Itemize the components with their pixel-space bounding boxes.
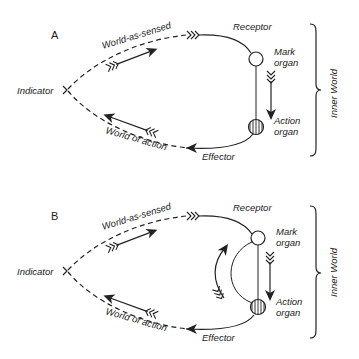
world-of-action-label: World of action — [104, 124, 168, 152]
panel-label-a: A — [51, 29, 59, 41]
receptor-path — [199, 35, 251, 53]
inner-world-brace-icon — [310, 206, 321, 338]
receptor-fletching-icon — [187, 31, 199, 39]
mark-organ-label-1: Mark — [276, 226, 298, 237]
functional-cycle-diagram: A Indicator Receptor World-as-sensed Eff… — [0, 0, 359, 359]
mark-organ-label-1: Mark — [274, 46, 296, 57]
panel-label-b: B — [51, 210, 58, 222]
receptor-path — [199, 216, 252, 234]
indicator-vertex-icon — [63, 267, 67, 275]
inner-world-label: Inner World — [328, 68, 339, 118]
mark-organ-label-2: organ — [276, 237, 300, 248]
indicator-label: Indicator — [17, 85, 54, 96]
panel-b: B Indicator Receptor World-as-sensed Eff… — [17, 200, 339, 343]
action-organ — [251, 298, 266, 316]
world-as-sensed-label: World-as-sensed — [100, 200, 173, 232]
inner-world-label: Inner World — [328, 247, 339, 297]
inner-feedback-arc — [231, 242, 252, 303]
mark-organ — [249, 52, 263, 66]
indicator-label: Indicator — [17, 266, 54, 277]
world-as-sensed-label: World-as-sensed — [100, 19, 173, 51]
internal-down-arrow-icon — [266, 71, 276, 120]
action-organ — [249, 118, 264, 136]
panel-a: A Indicator Receptor World-as-sensed Eff… — [17, 19, 339, 162]
action-organ-label-2: organ — [274, 126, 298, 137]
action-organ-label-1: Action — [275, 296, 302, 307]
receptor-label: Receptor — [233, 21, 272, 32]
action-organ-label-1: Action — [273, 115, 300, 126]
mark-organ — [251, 231, 265, 245]
effector-path — [186, 315, 254, 329]
effector-label: Effector — [202, 332, 236, 343]
receptor-fletching-icon — [187, 212, 199, 220]
feedback-arrow-icon — [212, 241, 232, 300]
action-organ-label-2: organ — [276, 307, 300, 318]
effector-path — [186, 134, 253, 148]
mark-organ-label-2: organ — [274, 57, 298, 68]
effector-label: Effector — [202, 151, 236, 162]
internal-down-arrow-icon — [265, 252, 275, 301]
indicator-vertex-icon — [63, 86, 67, 94]
receptor-label: Receptor — [233, 202, 272, 213]
inner-world-brace-icon — [310, 24, 321, 156]
world-of-action-label: World of action — [104, 305, 168, 333]
